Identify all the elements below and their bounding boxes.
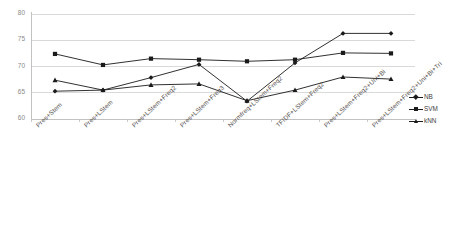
data-point bbox=[149, 57, 153, 61]
line-chart: 6065707580 Pres+StemPres+LStemPres+LStem… bbox=[0, 0, 460, 228]
legend-marker-icon bbox=[409, 117, 423, 126]
data-point bbox=[53, 78, 58, 83]
legend-point bbox=[414, 107, 418, 111]
data-point bbox=[389, 31, 394, 36]
legend-point bbox=[413, 94, 418, 99]
series-svm bbox=[53, 51, 393, 67]
data-point bbox=[341, 31, 346, 36]
x-tick bbox=[367, 119, 368, 122]
x-tick bbox=[223, 119, 224, 122]
x-tick bbox=[79, 119, 80, 122]
data-point bbox=[149, 75, 154, 80]
data-point bbox=[293, 58, 297, 62]
data-point bbox=[197, 58, 201, 62]
legend-label: SVM bbox=[423, 106, 438, 112]
data-point bbox=[53, 52, 57, 56]
legend-label: NB bbox=[423, 94, 433, 100]
x-tick bbox=[175, 119, 176, 122]
legend-item-svm[interactable]: SVM bbox=[409, 104, 457, 115]
data-point bbox=[53, 89, 58, 94]
chart-legend: NBSVMkNN bbox=[409, 92, 457, 128]
data-point bbox=[389, 51, 393, 55]
data-point bbox=[101, 63, 105, 67]
data-point bbox=[341, 51, 345, 55]
legend-marker-icon bbox=[409, 105, 423, 114]
legend-point bbox=[414, 119, 418, 123]
series-line bbox=[55, 53, 391, 65]
legend-label: kNN bbox=[423, 118, 436, 124]
legend-item-knn[interactable]: kNN bbox=[409, 116, 457, 127]
x-tick bbox=[271, 119, 272, 122]
data-point bbox=[245, 59, 249, 63]
x-tick bbox=[127, 119, 128, 122]
legend-item-nb[interactable]: NB bbox=[409, 92, 457, 103]
x-tick bbox=[319, 119, 320, 122]
legend-marker-icon bbox=[409, 93, 423, 102]
x-tick bbox=[31, 119, 32, 122]
